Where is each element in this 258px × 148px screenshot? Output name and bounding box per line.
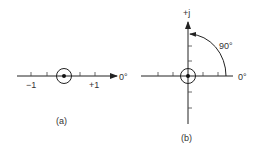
diagram-a: 0° −1 +1 (a) (17, 69, 128, 127)
zero-degree-label: 0° (119, 72, 128, 82)
plus-j-label: +j (183, 8, 190, 18)
origin-dot (186, 74, 190, 78)
plus-one-label: +1 (89, 80, 99, 90)
diagram-b: +j 90° 0° (b) (141, 8, 247, 143)
zero-degree-label: 0° (238, 72, 247, 82)
minus-one-label: −1 (26, 80, 36, 90)
ninety-degree-label: 90° (219, 41, 233, 51)
phase-diagrams: 0° −1 +1 (a) +j 90° 0° (b) (0, 0, 258, 148)
origin-dot (62, 74, 66, 78)
caption-b: (b) (181, 133, 192, 143)
caption-a: (a) (56, 116, 67, 126)
